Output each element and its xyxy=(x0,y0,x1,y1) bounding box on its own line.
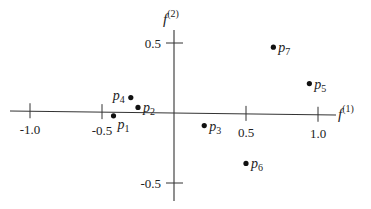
point-marker xyxy=(202,123,207,128)
data-point-p3: p3 xyxy=(202,119,222,136)
point-label: p7 xyxy=(277,40,290,57)
x-axis-line xyxy=(10,111,336,115)
scatter-chart: -1.0-0.50.51.00.5-0.5 p1p2p3p4p5p6p7 f(1… xyxy=(0,0,371,209)
y-tick-label: -0.5 xyxy=(140,176,161,191)
point-marker xyxy=(135,105,140,110)
x-tick-label: 0.5 xyxy=(238,125,254,140)
point-label: p6 xyxy=(250,156,263,173)
y-tick-label: 0.5 xyxy=(145,36,161,51)
point-label: p1 xyxy=(117,117,130,134)
data-point-p5: p5 xyxy=(307,77,327,94)
point-label: p2 xyxy=(142,100,155,117)
y-axis-label: f(2) xyxy=(163,8,179,27)
x-axis-label: f(1) xyxy=(338,103,354,122)
data-point-p6: p6 xyxy=(243,156,263,173)
data-point-p1: p1 xyxy=(111,113,130,134)
data-point-p4: p4 xyxy=(112,88,134,105)
data-point-p7: p7 xyxy=(271,40,291,57)
point-label: p4 xyxy=(112,88,125,105)
point-marker xyxy=(307,81,312,86)
data-point-p2: p2 xyxy=(135,100,155,117)
point-label: p5 xyxy=(313,77,326,94)
x-tick-label: 1.0 xyxy=(310,126,326,141)
point-marker xyxy=(128,95,133,100)
x-tick-label: -1.0 xyxy=(20,122,41,137)
point-marker xyxy=(271,45,276,50)
point-marker xyxy=(243,161,248,166)
point-label: p3 xyxy=(208,119,221,136)
point-marker xyxy=(111,113,116,118)
data-points: p1p2p3p4p5p6p7 xyxy=(111,40,326,173)
x-tick-label: -0.5 xyxy=(92,123,113,138)
